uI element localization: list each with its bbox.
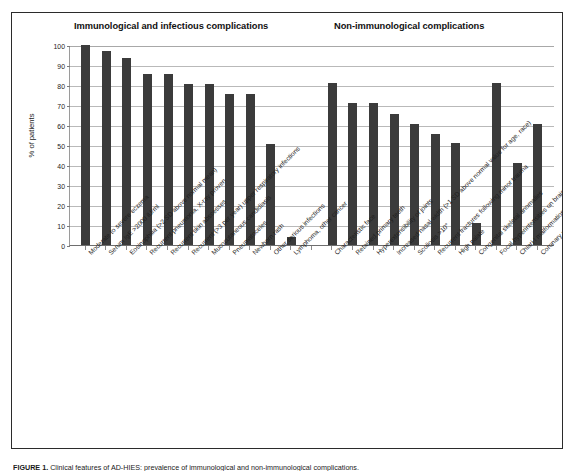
bar[interactable]: [492, 83, 501, 245]
y-axis-tick-mark: [67, 106, 70, 107]
bar[interactable]: [410, 124, 419, 245]
x-axis-tick-mark: [85, 246, 86, 250]
bar[interactable]: [122, 58, 131, 245]
y-axis-tick-label: 20: [57, 203, 65, 210]
y-axis-tick-mark: [67, 86, 70, 87]
figure-caption: FIGURE 1. Clinical features of AD-HIES: …: [13, 463, 561, 471]
x-axis-tick-mark: [393, 246, 394, 250]
x-axis-tick-mark: [434, 246, 435, 250]
bar[interactable]: [451, 143, 460, 245]
bar[interactable]: [513, 163, 522, 245]
y-axis-tick-mark: [67, 166, 70, 167]
x-axis-tick-mark: [352, 246, 353, 250]
x-axis-tick-mark: [290, 246, 291, 250]
bar[interactable]: [164, 74, 173, 245]
bar[interactable]: [184, 84, 193, 245]
bar[interactable]: [81, 45, 90, 245]
bar[interactable]: [431, 134, 440, 245]
x-axis-tick-mark: [516, 246, 517, 250]
group-title-immunological: Immunological and infectious complicatio…: [74, 21, 268, 31]
y-axis-tick-mark: [67, 46, 70, 47]
x-axis-tick-mark: [496, 246, 497, 250]
y-axis-tick-label: 80: [57, 83, 65, 90]
x-axis-tick-mark: [455, 246, 456, 250]
x-axis-tick-mark: [270, 246, 271, 250]
x-axis-tick-mark: [373, 246, 374, 250]
y-axis-tick-label: 0: [61, 243, 65, 250]
y-axis-tick-mark: [67, 126, 70, 127]
figure-caption-label: FIGURE 1.: [13, 463, 48, 471]
y-axis-tick-mark: [67, 206, 70, 207]
x-axis-tick-mark: [208, 246, 209, 250]
y-axis-tick-mark: [67, 146, 70, 147]
x-axis-tick-mark: [167, 246, 168, 250]
bar[interactable]: [102, 51, 111, 245]
figure-caption-text: Clinical features of AD-HIES: prevalence…: [48, 463, 359, 471]
bar[interactable]: [225, 94, 234, 245]
y-axis-tick-label: 60: [57, 123, 65, 130]
bar[interactable]: [205, 84, 214, 245]
x-axis-tick-mark: [146, 246, 147, 250]
x-axis-tick-mark: [331, 246, 332, 250]
x-axis-tick-mark: [105, 246, 106, 250]
bar[interactable]: [287, 237, 296, 245]
bar[interactable]: [472, 223, 481, 245]
x-axis-tick-mark: [229, 246, 230, 250]
bar[interactable]: [390, 114, 399, 245]
y-axis-tick-mark: [67, 226, 70, 227]
x-axis-tick-mark: [537, 246, 538, 250]
plot-area: 0102030405060708090100: [69, 46, 554, 246]
bar[interactable]: [348, 103, 357, 245]
x-axis-ticks: [69, 246, 554, 250]
y-axis-tick-label: 30: [57, 183, 65, 190]
y-axis-tick-label: 10: [57, 223, 65, 230]
bar[interactable]: [246, 94, 255, 245]
x-axis-tick-mark: [126, 246, 127, 250]
y-axis-tick-mark: [67, 66, 70, 67]
group-title-non-immunological: Non-immunological complications: [334, 21, 484, 31]
y-axis-tick-label: 40: [57, 163, 65, 170]
x-axis-tick-mark: [414, 246, 415, 250]
bar[interactable]: [143, 74, 152, 245]
bar[interactable]: [533, 124, 542, 245]
y-axis-tick-label: 100: [54, 43, 66, 50]
y-axis-tick-label: 70: [57, 103, 65, 110]
x-axis-tick-mark: [475, 246, 476, 250]
bar[interactable]: [328, 83, 337, 245]
x-axis-tick-mark: [311, 246, 312, 250]
y-axis-tick-label: 50: [57, 143, 65, 150]
bar[interactable]: [369, 103, 378, 245]
y-axis-tick-mark: [67, 186, 70, 187]
figure-frame: Immunological and infectious complicatio…: [11, 12, 563, 449]
x-axis-tick-mark: [188, 246, 189, 250]
y-axis-title: % of patients: [27, 96, 36, 176]
bar-series: [70, 46, 554, 245]
x-axis-tick-mark: [249, 246, 250, 250]
y-axis-tick-label: 90: [57, 63, 65, 70]
bar[interactable]: [266, 144, 275, 245]
